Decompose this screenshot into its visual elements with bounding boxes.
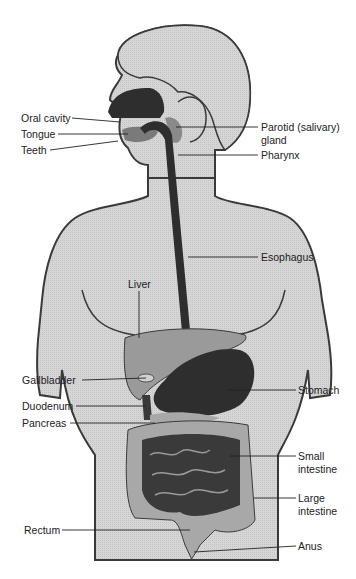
label-large-intestine-line2: intestine [298,505,337,518]
label-liver: Liver [128,278,151,291]
label-teeth: Teeth [21,144,47,157]
label-duodenum: Duodenum [22,400,73,413]
label-rectum: Rectum [24,524,60,537]
small-intestine-shape [142,434,240,516]
label-pharynx: Pharynx [261,149,300,162]
label-stomach: Stomach [298,384,339,397]
label-oral-cavity: Oral cavity [21,112,71,125]
label-tongue: Tongue [21,128,55,141]
label-gallbladder: Gallbladder [22,374,76,387]
label-small-intestine-line1: Small [298,450,324,463]
label-anus: Anus [298,540,322,553]
label-small-intestine-line2: intestine [298,463,337,476]
label-parotid-gland-line1: Parotid (salivary) [261,121,340,134]
label-large-intestine-line1: Large [298,492,325,505]
label-esophagus: Esophagus [261,251,314,264]
label-pancreas: Pancreas [22,417,66,430]
label-parotid-gland-line2: gland [261,134,287,147]
